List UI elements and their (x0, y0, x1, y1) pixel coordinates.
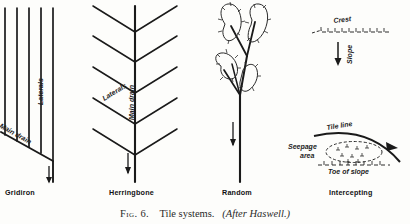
figure-caption: Fig. 6. Tile systems. (After Haswell.) (0, 208, 410, 219)
figure-caption-source: (After Haswell.) (222, 208, 290, 219)
lateral-line (135, 98, 177, 124)
panel-title-herringbone: Herringbone (109, 188, 154, 197)
random-diagram (195, 0, 290, 186)
lateral-line (93, 6, 135, 32)
lateral-line (135, 6, 177, 32)
seepage-area-label-line1: Seepage (288, 143, 317, 150)
seepage-area-label-line2: area (300, 152, 314, 159)
toe-hatch-group (324, 161, 380, 165)
panel-random (195, 0, 290, 186)
lateral-line (135, 67, 177, 93)
tile-line-arrow-icon (386, 142, 398, 151)
figure-caption-text: Tile systems. (159, 208, 214, 219)
random-branch (224, 70, 240, 95)
random-branch (231, 26, 247, 56)
slope-arrow-icon (335, 42, 342, 66)
seepage-marsh-symbols (336, 144, 369, 162)
panel-title-random: Random (222, 188, 252, 197)
gridiron-diagram (0, 0, 95, 186)
figure-tile-systems: Laterals Main drain (0, 0, 410, 224)
seepage-area-outline (326, 142, 382, 163)
panel-title-intercepting: Intercepting (329, 188, 373, 197)
down-arrow-icon (125, 153, 131, 175)
gridiron-laterals-label: Laterals (37, 78, 44, 105)
panel-gridiron: Laterals Main drain (0, 0, 95, 186)
lateral-line (135, 129, 177, 155)
down-arrow-icon (46, 166, 52, 184)
lateral-line (93, 36, 135, 62)
down-arrow-icon (230, 122, 236, 147)
crest-line (312, 30, 390, 33)
panel-herringbone: Laterals Main drain (95, 0, 195, 186)
panel-title-gridiron: Gridiron (5, 188, 35, 197)
panel-intercepting: Crest Slope Tile line Seepage area Toe o… (290, 0, 410, 186)
lateral-line (93, 129, 135, 155)
figure-number: Fig. 6. (120, 208, 149, 219)
herringbone-main-drain-label: Main drain (128, 85, 135, 120)
toe-of-slope-label: Toe of slope (328, 168, 369, 175)
slope-label: Slope (346, 45, 353, 64)
crest-hatch-group (321, 27, 384, 32)
random-branch (232, 64, 240, 95)
lateral-line (135, 36, 177, 62)
